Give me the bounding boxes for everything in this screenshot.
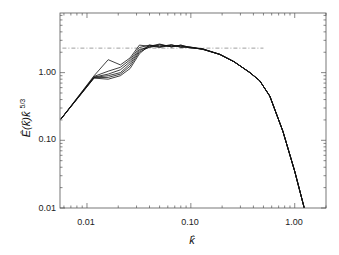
y-axis-title-exponent: 5/3 xyxy=(19,99,26,109)
series-line xyxy=(61,45,305,211)
axis-ticks xyxy=(60,13,326,208)
plot-lines xyxy=(61,44,305,210)
x-tick-label-0.01: 0.01 xyxy=(77,217,95,227)
y-tick-label-1.00: 1.00 xyxy=(38,67,56,77)
series-line xyxy=(61,45,305,210)
spectrum-chart: 0.01 0.10 1.00 0.01 0.10 1.00 k̂ Ê(k̂)k̂… xyxy=(0,0,339,255)
series-line xyxy=(61,45,305,210)
y-axis-title: Ê(k̂)k̂ 5/3 xyxy=(19,99,32,138)
series-line xyxy=(61,45,305,210)
x-axis-title: k̂ xyxy=(189,234,195,246)
x-tick-label-0.10: 0.10 xyxy=(181,217,199,227)
y-tick-labels: 0.01 0.10 1.00 xyxy=(38,67,56,213)
x-tick-label-1.00: 1.00 xyxy=(285,217,303,227)
series-line xyxy=(61,44,305,210)
y-axis-title-base: Ê(k̂)k̂ xyxy=(20,111,32,137)
svg-text:Ê(k̂)k̂ 5/3: Ê(k̂)k̂ 5/3 xyxy=(19,99,32,138)
y-tick-label-0.01: 0.01 xyxy=(38,203,56,213)
x-tick-labels: 0.01 0.10 1.00 xyxy=(77,217,303,227)
series-line xyxy=(61,45,305,211)
y-tick-label-0.10: 0.10 xyxy=(38,134,56,144)
plot-frame xyxy=(60,13,326,208)
